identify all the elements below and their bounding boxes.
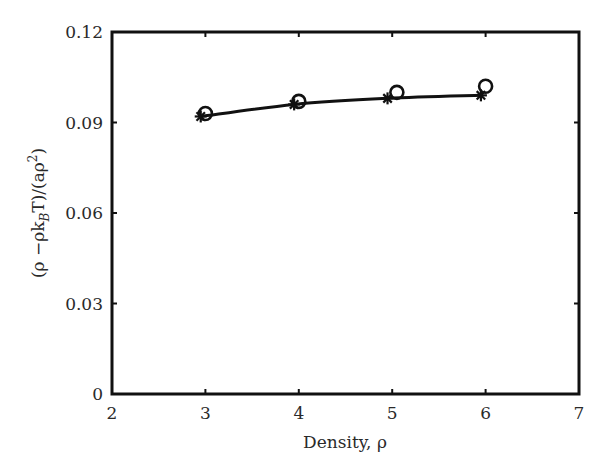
theory-curve [201,95,481,116]
x-tick-label: 4 [293,403,304,423]
x-axis-label: Density, ρ [303,432,387,452]
y-label-suffix: ) [28,148,48,155]
x-tick-label: 3 [200,403,211,423]
series-line [201,95,481,116]
y-label-sub: B [38,213,52,223]
chart: 23456700.030.060.090.12 Density, ρ (ρ −ρ… [0,0,615,472]
y-tick-label: 0.03 [65,294,103,314]
y-tick-label: 0.09 [65,113,103,133]
y-axis-label: (ρ −ρkBT)/(aρ2) [26,148,52,278]
y-tick-label: 0.12 [65,22,103,42]
circle-marker [479,80,492,93]
plot-frame [112,32,579,394]
ticks [112,32,579,394]
y-tick-label: 0.06 [65,203,103,223]
y-label-sup: 2 [26,155,40,163]
x-tick-label: 7 [574,403,585,423]
y-tick-label: 0 [92,384,103,404]
x-tick-label: 2 [107,403,118,423]
y-label-mid: T)/(aρ [28,162,48,212]
y-label-prefix: (ρ −ρk [28,221,48,278]
x-tick-label: 5 [387,403,398,423]
x-tick-label: 6 [480,403,491,423]
tick-labels: 23456700.030.060.090.12 [65,22,584,423]
